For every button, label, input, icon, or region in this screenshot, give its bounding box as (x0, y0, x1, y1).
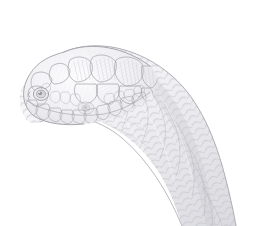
snake-illustration (0, 0, 257, 226)
illustration-canvas: Snake head and neck pencil illustration … (0, 0, 257, 226)
